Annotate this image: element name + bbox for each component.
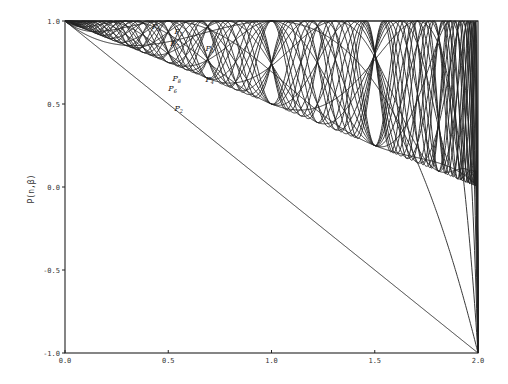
x-tick-label: 1.5 <box>368 357 381 365</box>
series-P2 <box>65 21 478 353</box>
y-tick-label: 1.0 <box>47 18 60 26</box>
curves-group <box>65 21 478 353</box>
x-tick-label: 1.0 <box>265 357 278 365</box>
y-tick-label: -0.5 <box>43 267 60 275</box>
curve-label-p2: P2 <box>173 104 183 114</box>
chart: 0.00.51.01.52.0 1.00.50.0-0.5-1.0 P(n,β)… <box>0 0 508 384</box>
y-tick-label: -1.0 <box>43 350 60 358</box>
curve-label-p5: P5 <box>173 27 183 37</box>
x-axis: 0.00.51.01.52.0 <box>59 350 485 365</box>
y-tick-label: 0.0 <box>47 184 60 192</box>
curve-label-p8: P8 <box>171 74 181 84</box>
x-tick-label: 2.0 <box>472 357 485 365</box>
x-tick-label: 0.5 <box>162 357 175 365</box>
y-axis: 1.00.50.0-0.5-1.0 <box>43 18 65 358</box>
y-tick-label: 0.5 <box>47 101 60 109</box>
curve-label-p6: P6 <box>167 84 177 94</box>
x-tick-label: 0.0 <box>59 357 72 365</box>
y-axis-label: P(n,β) <box>27 175 36 204</box>
